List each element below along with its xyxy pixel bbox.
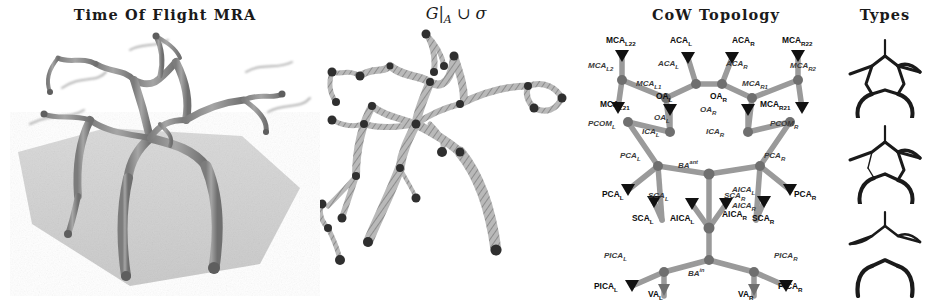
- node-label-mca-l21: MCAL21: [600, 100, 630, 111]
- type-3-icon: [842, 206, 928, 298]
- type-variant-3: [842, 206, 928, 292]
- node-label-va-r: VAR: [738, 290, 753, 301]
- node-label-va-l: VAL: [648, 290, 663, 301]
- type-variant-2: [842, 118, 928, 204]
- node-label-mca-r21: MCAR21: [760, 100, 790, 111]
- edge-label-ica-l: ICAL: [642, 128, 659, 138]
- edge-label-mca-l1: MCAL1: [636, 80, 661, 90]
- types-panel: [842, 28, 928, 300]
- edge-label-pca-r: PCAR: [764, 152, 785, 162]
- edge-label-pca-l: PCAL: [620, 152, 641, 162]
- centerline-graph-image: [320, 28, 592, 296]
- graph-title-sigma: σ: [475, 4, 486, 23]
- edge-label-mca-r1: MCAR1: [742, 80, 768, 90]
- edge-label-aica-r: AICAR: [732, 202, 756, 212]
- node-label-aica-l: AICAL: [670, 214, 694, 225]
- panel-title-tof: Time Of Flight MRA: [10, 6, 320, 23]
- tissue-slab: [18, 128, 300, 286]
- graph-title-g: G: [426, 4, 439, 23]
- tof-mra-image: [10, 28, 320, 296]
- edge-label-sca-l: SCAL: [648, 192, 669, 202]
- edge-label-pica-r: PICAR: [774, 252, 797, 262]
- edge-label-aca-l: ACAL: [658, 60, 679, 70]
- node-label-pica-l: PICAL: [594, 282, 618, 293]
- node-label-oa-l: OAL: [656, 92, 672, 103]
- node-label-pca-r: PCAR: [794, 190, 816, 201]
- type-1-icon: [842, 32, 928, 118]
- edge-label-mca-l2: MCAL2: [588, 62, 613, 72]
- type-variant-1: [842, 32, 928, 118]
- tof-mra-panel: [10, 28, 320, 296]
- node-label-aca-r: ACAR: [732, 36, 755, 47]
- node-label-mca-r22: MCAR22: [782, 36, 812, 47]
- edge-label-pcom-r: PCOMR: [770, 120, 798, 130]
- edge-label-aica-l: AICAL: [732, 186, 755, 196]
- node-label-pca-l: PCAL: [602, 190, 623, 201]
- panel-title-topology: CoW Topology: [592, 6, 840, 23]
- node-label-aica-r: AICAR: [722, 210, 747, 221]
- cow-topology-panel: MCAL22 ACAL ACAR MCAR22 MCAL21 OAL OAR M…: [592, 28, 840, 300]
- panel-title-types: Types: [842, 6, 928, 23]
- figure-root: Time Of Flight MRA G|A ∪ σ CoW Topology …: [0, 0, 931, 302]
- edge-label-ba-ant: BAant: [678, 160, 698, 170]
- edge-label-pcom-l: PCOML: [588, 120, 616, 130]
- node-label-pica-r: PICAR: [778, 282, 802, 293]
- edge-label-mca-r2: MCAR2: [790, 62, 816, 72]
- peripheral-vessels: [30, 40, 310, 124]
- node-label-aca-l: ACAL: [670, 36, 692, 47]
- node-label-oa-r: OAR: [710, 92, 727, 103]
- graph-title-sub: A: [444, 13, 452, 26]
- edge-label-ica-r: ICAR: [706, 128, 724, 138]
- node-label-sca-l: SCAL: [632, 214, 653, 225]
- panel-title-graph: G|A ∪ σ: [320, 4, 592, 26]
- graph-title-union: ∪: [457, 4, 470, 23]
- edge-label-oa-r: OAR: [700, 106, 716, 116]
- edge-label-ba-in: BAin: [688, 268, 705, 278]
- centerline-graph-panel: [320, 28, 592, 296]
- edge-label-pica-l: PICAL: [604, 252, 627, 262]
- edge-label-oa-l: OAL: [654, 114, 670, 124]
- node-label-mca-l22: MCAL22: [606, 36, 636, 47]
- type-2-icon: [842, 118, 928, 204]
- edge-label-aca-r: ACAR: [726, 60, 748, 70]
- node-label-sca-r: SCAR: [752, 214, 774, 225]
